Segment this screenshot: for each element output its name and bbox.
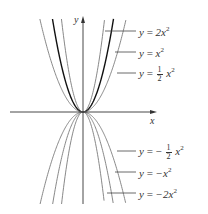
x-axis-label: x [150,115,154,126]
label-neg-2x2: y = −2x2 [139,188,177,200]
fraction: 12 [157,66,163,83]
label-2x2: y = 2x2 [139,26,170,38]
parabola-family-plot [0,0,208,214]
label-neg-half-x2: y = − 12 x2 [139,144,184,161]
label-half-x2: y = 12 x2 [139,66,175,83]
label-neg-x2: y = −x2 [139,167,171,179]
x-axis-arrow-icon [150,110,157,114]
label-x2: y = x2 [139,47,164,59]
fraction: 12 [166,144,172,161]
y-axis-label: y [74,14,78,25]
y-axis-arrow-icon [81,16,85,23]
